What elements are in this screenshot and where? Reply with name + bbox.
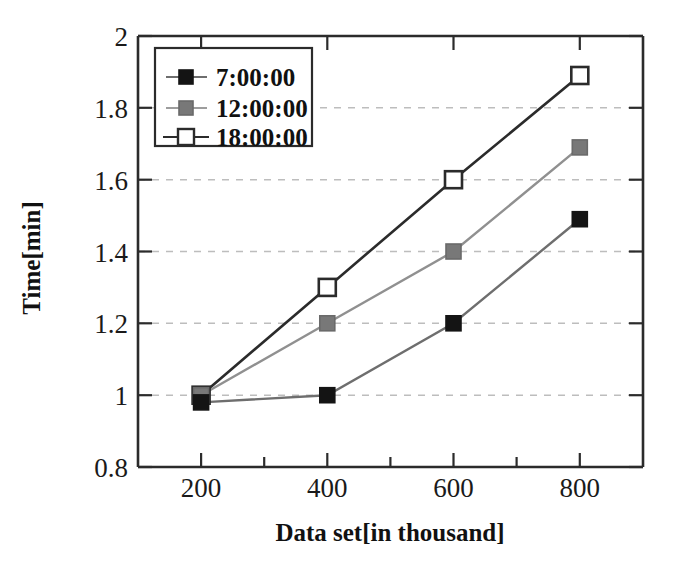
y-axis-title: Time[min] — [18, 201, 45, 314]
legend-marker-open-square-icon — [178, 129, 194, 145]
data-point — [320, 388, 335, 403]
legend-label-7: 7:00:00 — [216, 64, 295, 91]
data-point — [320, 316, 335, 331]
data-point — [571, 67, 588, 84]
legend-label-12: 12:00:00 — [216, 95, 308, 122]
y-tick-label: 1.8 — [94, 94, 128, 124]
data-point — [572, 140, 587, 155]
legend-marker-gray-square-icon — [179, 101, 193, 115]
y-tick-label: 1 — [115, 381, 129, 411]
data-point — [319, 279, 336, 296]
x-tick-label: 800 — [560, 473, 601, 503]
x-axis-title: Data set[in thousand] — [275, 519, 504, 546]
line-chart: 2 1.8 1.6 1.4 1.2 1 0.8 200 400 600 800 … — [0, 0, 678, 563]
data-point — [194, 395, 209, 410]
x-tick-labels: 200 400 600 800 — [181, 473, 600, 503]
legend-marker-filled-square-icon — [179, 70, 193, 84]
x-tick-label: 400 — [307, 473, 348, 503]
data-point — [445, 171, 462, 188]
y-tick-label: 1.4 — [94, 238, 128, 268]
legend[interactable]: 7:00:00 12:00:00 18:00:00 — [155, 48, 312, 151]
y-tick-label: 1.2 — [94, 309, 128, 339]
data-point — [446, 316, 461, 331]
y-tick-label: 1.6 — [94, 166, 128, 196]
x-tick-label: 600 — [433, 473, 474, 503]
x-tick-label: 200 — [181, 473, 222, 503]
legend-label-18: 18:00:00 — [216, 124, 308, 151]
y-tick-labels: 2 1.8 1.6 1.4 1.2 1 0.8 — [94, 22, 128, 483]
data-point — [446, 244, 461, 259]
data-point — [572, 212, 587, 227]
y-tick-label: 2 — [115, 22, 129, 52]
chart-page: 2 1.8 1.6 1.4 1.2 1 0.8 200 400 600 800 … — [0, 0, 678, 563]
y-tick-label: 0.8 — [94, 453, 128, 483]
